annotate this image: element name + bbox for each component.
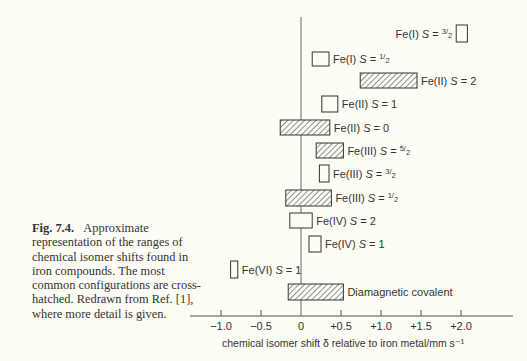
range-bar-9: Fe(IV) S = 1 (309, 236, 385, 252)
open-range-box (456, 25, 467, 42)
range-label: Fe(III) S = 3/2 (333, 167, 396, 180)
chart-axes: −1.0−0.50+0.5+1.0+1.5+2.0 chemical isome… (190, 17, 513, 349)
range-label: Fe(II) S = 1 (342, 98, 397, 110)
open-range-box (322, 96, 338, 112)
x-tick-label: +0.5 (330, 320, 352, 332)
x-tick-label: −1.0 (210, 320, 232, 332)
hatched-range-box (288, 284, 343, 300)
range-label: Fe(II) S = 0 (334, 122, 389, 134)
range-bar-5: Fe(III) S = 5/2 (316, 143, 410, 158)
x-tick-label: +2.0 (450, 320, 472, 332)
range-label: Fe(VI) S = 1 (242, 264, 302, 276)
range-label: Fe(IV) S = 1 (325, 238, 385, 250)
x-ticks: −1.0−0.50+0.5+1.0+1.5+2.0 (210, 310, 472, 332)
range-label: Diamagnetic covalent (347, 286, 452, 298)
range-label: Fe(I) S = 3/2 (396, 27, 453, 40)
range-bar-3: Fe(II) S = 1 (322, 96, 397, 112)
x-tick-label: 0 (298, 320, 304, 332)
open-range-box (231, 261, 238, 278)
range-bar-4: Fe(II) S = 0 (280, 120, 389, 135)
range-bar-2: Fe(II) S = 2 (360, 73, 476, 88)
hatched-range-box (280, 120, 330, 135)
range-bar-7: Fe(III) S = 1/2 (286, 190, 398, 206)
hatched-range-box (286, 190, 332, 206)
range-label: Fe(III) S = 5/2 (347, 144, 410, 157)
range-bar-10: Fe(VI) S = 1 (231, 261, 302, 278)
range-bar-6: Fe(III) S = 3/2 (319, 165, 395, 182)
hatched-range-box (316, 143, 343, 158)
hatched-range-box (360, 73, 417, 88)
x-tick-label: +1.0 (370, 320, 392, 332)
range-label: Fe(II) S = 2 (421, 75, 476, 87)
range-label: Fe(I) S = 1/2 (333, 52, 390, 65)
x-axis-label: chemical isomer shift δ relative to iron… (222, 337, 465, 349)
x-tick-label: +1.5 (410, 320, 432, 332)
isomer-shift-chart: −1.0−0.50+0.5+1.0+1.5+2.0 chemical isome… (0, 0, 527, 361)
open-range-box (309, 236, 321, 252)
range-bar-0: Fe(I) S = 3/2 (396, 25, 468, 42)
x-tick-label: −0.5 (250, 320, 272, 332)
open-range-box (290, 213, 312, 228)
range-bar-11: Diamagnetic covalent (288, 284, 452, 300)
range-bar-8: Fe(IV) S = 2 (290, 213, 376, 228)
range-bar-1: Fe(I) S = 1/2 (312, 52, 389, 66)
open-range-box (312, 52, 329, 66)
open-range-box (319, 165, 329, 182)
range-bars: Fe(I) S = 3/2Fe(I) S = 1/2Fe(II) S = 2Fe… (231, 25, 477, 300)
range-label: Fe(III) S = 1/2 (335, 191, 398, 204)
range-label: Fe(IV) S = 2 (316, 215, 376, 227)
